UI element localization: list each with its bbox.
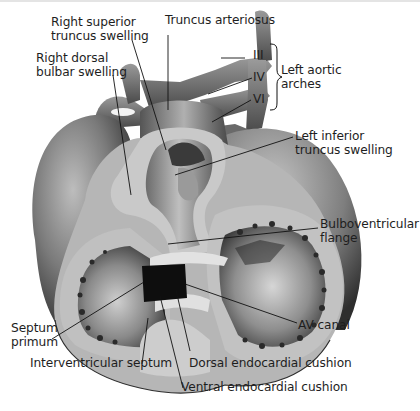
label-left-aortic-arches: Left aortic arches	[281, 64, 342, 91]
label-line: Septum	[11, 322, 58, 336]
av-canal	[142, 264, 187, 302]
label-line: Left aortic	[281, 64, 342, 78]
label-truncus-arteriosus: Truncus arteriosus	[165, 14, 275, 28]
label-left-inferior-truncus-swelling: Left inferior truncus swelling	[295, 130, 393, 157]
label-line: truncus swelling	[51, 30, 149, 44]
label-bulboventricular-flange: Bulboventricular flange	[320, 218, 419, 245]
label-line: primum	[11, 336, 58, 350]
label-line: Right superior	[51, 16, 149, 30]
label-line: truncus swelling	[295, 144, 393, 158]
label-line: Bulboventricular	[320, 218, 419, 232]
label-av-canal: AV canal	[298, 319, 350, 333]
label-arch-iii: III	[253, 49, 263, 63]
label-right-dorsal-bulbar-swelling: Right dorsal bulbar swelling	[36, 52, 127, 79]
label-line: Left inferior	[295, 130, 393, 144]
label-dorsal-endocardial-cushion: Dorsal endocardial cushion	[189, 357, 352, 371]
label-line: flange	[320, 232, 419, 246]
label-line: Right dorsal	[36, 52, 127, 66]
label-arch-vi: VI	[253, 93, 265, 107]
label-right-superior-truncus-swelling: Right superior truncus swelling	[51, 16, 149, 43]
label-ventral-endocardial-cushion: Ventral endocardial cushion	[181, 381, 348, 395]
label-arch-iv: IV	[253, 71, 265, 85]
label-line: arches	[281, 78, 342, 92]
label-line: bulbar swelling	[36, 66, 127, 80]
label-septum-primum: Septum primum	[11, 322, 58, 349]
label-interventricular-septum: Interventricular septum	[30, 357, 172, 371]
